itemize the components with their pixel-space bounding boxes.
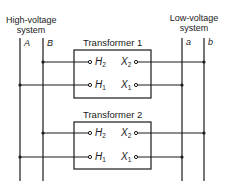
junction-dot (18, 83, 21, 86)
t1-h2-label: H2 (95, 57, 106, 70)
t1-x2-sub: 2 (128, 61, 132, 68)
t1-x1-letter: X (121, 79, 128, 90)
bus-A-label: A (24, 38, 30, 48)
t1-x1-sub: 1 (128, 84, 132, 91)
t2-x1-letter: X (121, 151, 128, 162)
t1-x1-label: X1 (121, 80, 131, 93)
bus-B-label: B (47, 38, 53, 48)
t2-x2-sub: 2 (128, 132, 132, 139)
transformer-2-label: Transformer 2 (83, 110, 142, 120)
t2-x2-letter: X (121, 127, 128, 138)
t2-h1-label: H1 (95, 152, 106, 165)
t2-h1-sub: 1 (102, 156, 106, 163)
t1-x2-letter: X (121, 56, 128, 67)
transformer-2-box (74, 122, 151, 169)
low-voltage-title: Low-voltage system (168, 13, 220, 33)
junction-dot (41, 60, 44, 63)
t1-h1-sub: 1 (102, 84, 106, 91)
transformer-1-label: Transformer 1 (83, 38, 142, 48)
t2-h2-label: H2 (95, 128, 106, 141)
bus-b-label: b (208, 37, 213, 47)
t2-h1-terminal (88, 155, 91, 158)
high-voltage-title-line2: system (6, 25, 56, 35)
t1-h2-terminal (88, 60, 91, 63)
t1-h2-sub: 2 (102, 61, 106, 68)
high-voltage-title: High-voltage system (6, 15, 56, 35)
t1-x2-label: X2 (121, 57, 131, 70)
junction-dot (41, 131, 44, 134)
t2-h2-sub: 2 (102, 132, 106, 139)
junction-dot (202, 60, 205, 63)
t2-x2-terminal (134, 131, 137, 134)
bus-a-label: a (186, 37, 191, 47)
high-voltage-title-line1: High-voltage (6, 15, 56, 25)
t2-h2-terminal (88, 131, 91, 134)
t1-x2-terminal (134, 60, 137, 63)
t1-h1-terminal (88, 83, 91, 86)
junction-dot (180, 155, 183, 158)
t2-x2-label: X2 (121, 128, 131, 141)
t1-x1-terminal (134, 83, 137, 86)
transformer-1-box (74, 50, 151, 98)
t2-x1-sub: 1 (128, 156, 132, 163)
t1-h1-label: H1 (95, 80, 106, 93)
junction-dot (180, 83, 183, 86)
low-voltage-title-line1: Low-voltage (168, 13, 220, 23)
t2-x1-terminal (134, 155, 137, 158)
junction-dot (18, 155, 21, 158)
low-voltage-title-line2: system (168, 23, 220, 33)
t2-x1-label: X1 (121, 152, 131, 165)
junction-dot (202, 131, 205, 134)
